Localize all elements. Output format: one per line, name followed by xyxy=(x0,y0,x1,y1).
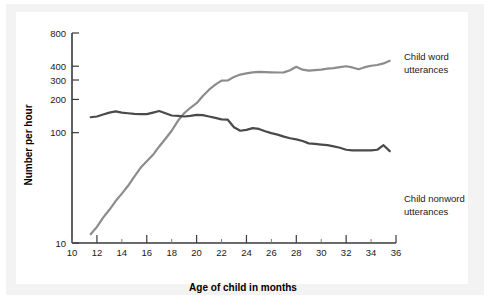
y-tick-label-10: 10 xyxy=(55,238,66,249)
series-label-nonword-line1: Child nonword xyxy=(404,193,465,204)
y-tick-label-200: 200 xyxy=(50,94,66,105)
x-tick-label-30: 30 xyxy=(316,247,327,258)
x-tick-label-16: 16 xyxy=(141,247,152,258)
x-tick-label-12: 12 xyxy=(92,247,103,258)
x-tick-label-36: 36 xyxy=(391,247,402,258)
figure-root: 10100200300400800 1012141618202224262830… xyxy=(0,0,496,307)
series-label-word-line2: utterances xyxy=(404,64,449,75)
y-axis-title: Number per hour xyxy=(23,104,34,185)
series-line-child-word-utterances xyxy=(91,61,390,234)
y-tick-label-400: 400 xyxy=(50,61,66,72)
x-tick-label-26: 26 xyxy=(266,247,277,258)
y-tick-label-300: 300 xyxy=(50,75,66,86)
x-axis-group: 1012141618202224262830323436 xyxy=(67,235,402,258)
x-axis-tick-labels: 1012141618202224262830323436 xyxy=(67,247,402,258)
x-tick-label-10: 10 xyxy=(67,247,78,258)
series-label-nonword-line2: utterances xyxy=(404,206,449,217)
x-tick-label-28: 28 xyxy=(291,247,302,258)
line-chart-svg: 10100200300400800 1012141618202224262830… xyxy=(0,0,496,307)
x-axis-title: Age of child in months xyxy=(189,282,297,293)
x-tick-label-14: 14 xyxy=(117,247,128,258)
x-tick-label-24: 24 xyxy=(241,247,252,258)
series-label-word-line1: Child word xyxy=(404,51,449,62)
x-tick-label-18: 18 xyxy=(166,247,177,258)
x-tick-label-22: 22 xyxy=(216,247,227,258)
x-tick-label-32: 32 xyxy=(341,247,352,258)
y-axis-ticks xyxy=(72,33,79,243)
x-axis-ticks xyxy=(72,235,396,243)
y-tick-label-100: 100 xyxy=(50,127,66,138)
y-axis-tick-labels: 10100200300400800 xyxy=(50,28,66,249)
y-tick-label-800: 800 xyxy=(50,28,66,39)
x-tick-label-20: 20 xyxy=(191,247,202,258)
y-axis-group: 10100200300400800 xyxy=(50,28,79,249)
chart-plot-area: 10100200300400800 1012141618202224262830… xyxy=(0,0,496,307)
x-tick-label-34: 34 xyxy=(366,247,377,258)
series-line-child-nonword-utterances xyxy=(91,111,390,151)
